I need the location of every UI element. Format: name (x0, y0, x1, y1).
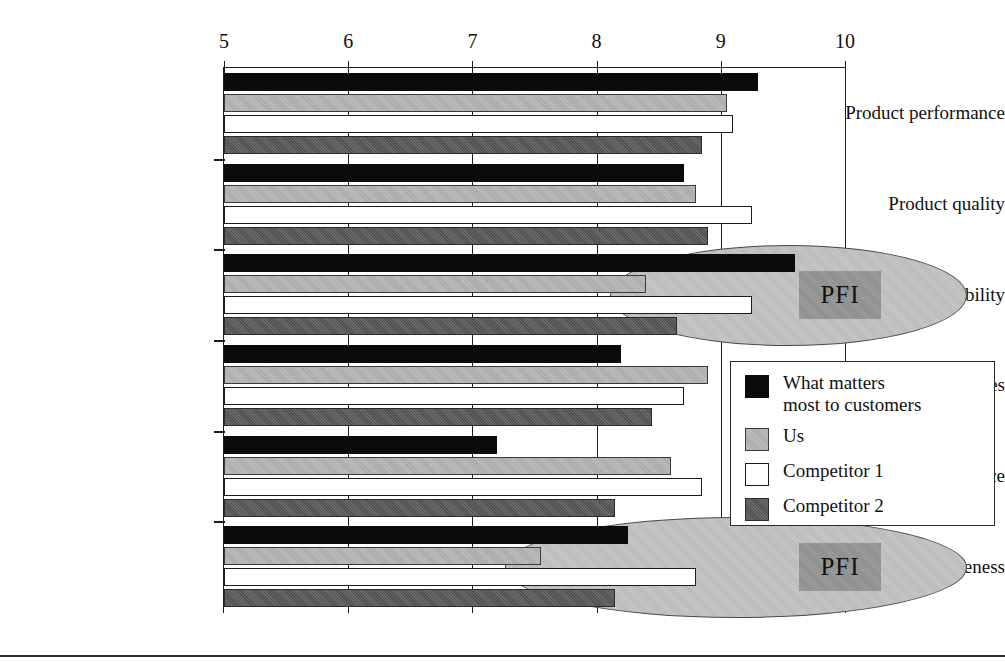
y-tick-mark (214, 431, 225, 433)
y-tick-mark (214, 249, 225, 251)
x-axis-line (224, 67, 846, 68)
legend-item: Competitor 2 (745, 495, 984, 521)
bar (224, 206, 752, 224)
legend-label: What matters most to customers (783, 372, 921, 416)
bar (224, 526, 628, 544)
legend-swatch-white (745, 463, 769, 486)
bar (224, 227, 708, 245)
legend-label: Us (783, 425, 804, 447)
bar (224, 568, 696, 586)
x-tick-label: 6 (343, 31, 353, 51)
page-divider-rule (0, 655, 1005, 657)
chart-figure: 5678910 Product performanceProduct quali… (0, 0, 1005, 663)
y-tick-mark (214, 340, 225, 342)
pfi-label: PFI (799, 271, 881, 319)
bar (224, 275, 646, 293)
bar (224, 478, 702, 496)
legend-swatch-dark-gray (745, 498, 769, 521)
bar (224, 408, 652, 426)
legend-item: Us (745, 425, 984, 451)
bar (224, 387, 684, 405)
bar (224, 589, 615, 607)
x-tick-label: 5 (219, 31, 229, 51)
legend-item: What matters most to customers (745, 372, 984, 416)
bar (224, 317, 677, 335)
legend-label: Competitor 1 (783, 460, 884, 482)
x-tick-label: 8 (592, 31, 602, 51)
bar (224, 164, 684, 182)
bar (224, 73, 758, 91)
bar (224, 94, 727, 112)
category-label: Product quality (800, 193, 1005, 215)
bar (224, 115, 733, 133)
bar (224, 136, 702, 154)
bar (224, 547, 541, 565)
x-tick-label: 9 (716, 31, 726, 51)
bar (224, 185, 696, 203)
bar (224, 366, 708, 384)
y-tick-mark (214, 159, 225, 161)
bar (224, 499, 615, 517)
x-tick-mark (224, 61, 225, 73)
legend-swatch-light-gray (745, 428, 769, 451)
bar (224, 296, 752, 314)
bar (224, 436, 497, 454)
legend-item: Competitor 1 (745, 460, 984, 486)
bar (224, 457, 671, 475)
bar (224, 345, 621, 363)
pfi-label: PFI (799, 543, 881, 591)
category-label: Product performance (800, 102, 1005, 124)
x-tick-label: 10 (835, 31, 855, 51)
chart-legend: What matters most to customers Us Compet… (730, 361, 995, 526)
y-tick-mark (214, 521, 225, 523)
legend-swatch-black (745, 375, 769, 398)
bar (224, 254, 795, 272)
x-tick-label: 7 (467, 31, 477, 51)
legend-label: Competitor 2 (783, 495, 884, 517)
